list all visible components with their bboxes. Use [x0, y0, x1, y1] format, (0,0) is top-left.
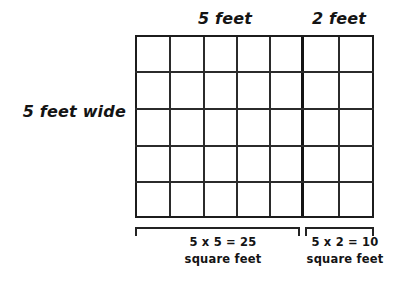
grid-vline-7 [372, 35, 374, 218]
grid-vline-2 [203, 35, 205, 218]
grid-vline-6 [338, 35, 340, 218]
grid-vline-1 [169, 35, 171, 218]
left-area-units: square feet [145, 252, 301, 266]
top-left-width-label: 5 feet [150, 9, 300, 28]
bracket-bar [305, 227, 374, 229]
grid-hline-4 [135, 181, 374, 183]
grid-hline-5 [135, 216, 374, 218]
right-section-area-label: 5 x 2 = 10 square feet [302, 235, 388, 266]
left-section-area-label: 5 x 5 = 25 square feet [145, 235, 301, 266]
grid-vline-0 [135, 35, 137, 218]
grid-hline-0 [135, 35, 374, 37]
grid-hline-1 [135, 71, 374, 73]
top-right-width-label: 2 feet [302, 9, 376, 28]
grid-hline-2 [135, 108, 374, 110]
right-area-units: square feet [302, 252, 388, 266]
bracket-tick-left [135, 227, 137, 236]
grid-hline-3 [135, 145, 374, 147]
area-model-diagram: 5 feet 2 feet 5 feet wide 5 x 5 = 25 s [0, 0, 394, 288]
side-height-label: 5 feet wide [8, 102, 126, 121]
right-area-expression: 5 x 2 = 10 [311, 235, 378, 249]
grid-section-divider [301, 35, 304, 218]
grid-vline-4 [269, 35, 271, 218]
grid-vline-3 [236, 35, 238, 218]
area-grid [135, 35, 374, 218]
left-area-expression: 5 x 5 = 25 [189, 235, 256, 249]
bracket-bar [135, 227, 300, 229]
